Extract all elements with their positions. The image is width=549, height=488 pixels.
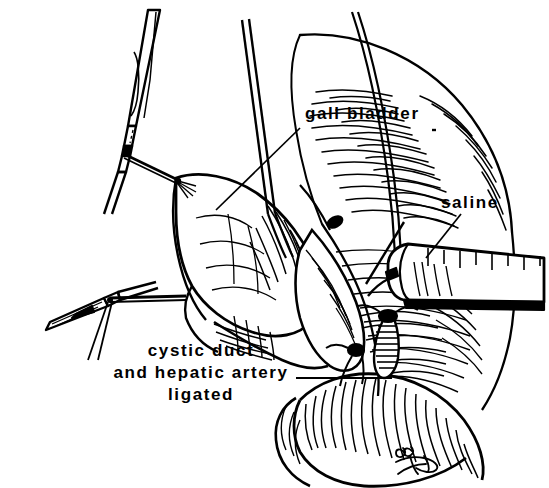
label-gall-bladder: gall bladder [305, 103, 420, 124]
hepatic-artery-knot [348, 344, 364, 356]
label-ligated-line-1: cystic duct [110, 340, 292, 362]
surgical-illustration [0, 0, 549, 488]
label-saline: saline [441, 192, 499, 213]
cystic-duct-knot [379, 310, 397, 322]
illustration-page: gall bladder saline cystic duct and hepa… [0, 0, 549, 488]
label-ligated-line-3: ligated [110, 384, 292, 406]
label-cystic-duct-ligated: cystic duct and hepatic artery ligated [110, 340, 292, 406]
label-ligated-line-2: and hepatic artery [110, 362, 292, 384]
